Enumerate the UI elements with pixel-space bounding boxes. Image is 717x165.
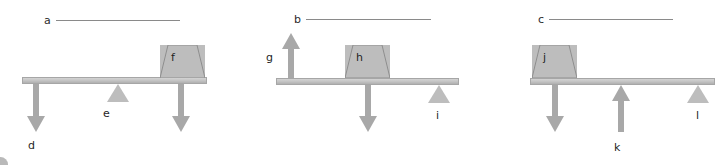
fulcrum-e xyxy=(107,84,129,102)
force-arrow-3-left xyxy=(546,85,564,132)
lever-beam-2 xyxy=(276,78,459,85)
lever-diagram-3: c j l k xyxy=(480,0,717,165)
force-arrow-g-label: g xyxy=(266,52,273,63)
fulcrum-e-label: e xyxy=(103,108,110,119)
force-arrow-2-middle xyxy=(359,85,377,132)
load-block-j: j xyxy=(532,45,577,78)
load-block-h: h xyxy=(345,45,390,78)
lever-diagram-2: b h i g xyxy=(240,0,480,165)
load-block-j-label: j xyxy=(543,52,546,63)
fulcrum-l xyxy=(687,85,709,103)
load-block-f-label: f xyxy=(171,52,175,63)
answer-blank-c-label: c xyxy=(538,14,544,25)
arrow-up-icon xyxy=(612,85,630,132)
answer-blank-c[interactable]: c xyxy=(538,14,673,25)
fulcrum-i xyxy=(428,85,450,103)
answer-blank-a-label: a xyxy=(44,15,51,26)
trapezoid-shape-icon xyxy=(532,45,577,78)
answer-blank-b[interactable]: b xyxy=(294,14,431,25)
load-block-f: f xyxy=(160,45,205,78)
arrow-down-icon xyxy=(359,85,377,132)
force-arrow-d-label: d xyxy=(28,140,35,151)
fulcrum-i-label: i xyxy=(436,110,439,121)
arrow-down-icon xyxy=(172,84,190,132)
force-arrow-d xyxy=(27,84,45,132)
force-arrow-1-right xyxy=(172,84,190,132)
lever-beam-3 xyxy=(530,78,715,85)
lever-beam-1 xyxy=(22,77,207,84)
lever-diagram-1: a f e d xyxy=(0,0,240,165)
arrow-down-icon xyxy=(27,84,45,132)
arrow-up-icon xyxy=(282,33,300,78)
answer-blank-b-label: b xyxy=(294,14,301,25)
arrow-down-icon xyxy=(546,85,564,132)
force-arrow-k-label: k xyxy=(614,142,620,153)
answer-blank-b-line[interactable] xyxy=(306,19,431,20)
answer-blank-a-line[interactable] xyxy=(56,20,180,21)
fulcrum-l-label: l xyxy=(696,110,699,121)
trapezoid-shape-icon xyxy=(345,45,390,78)
force-arrow-k xyxy=(612,85,630,132)
answer-blank-a[interactable]: a xyxy=(44,15,180,26)
load-block-h-label: h xyxy=(356,52,363,63)
worksheet-figure: a f e d xyxy=(0,0,717,165)
answer-blank-c-line[interactable] xyxy=(549,19,673,20)
force-arrow-g xyxy=(282,33,300,78)
trapezoid-shape-icon xyxy=(160,45,205,78)
